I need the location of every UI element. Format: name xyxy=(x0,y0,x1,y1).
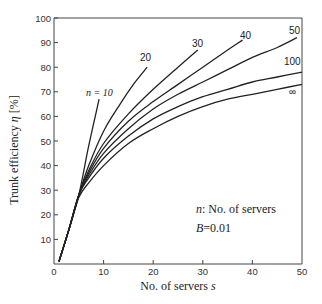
y-tick-label: 100 xyxy=(35,13,51,24)
y-tick-label: 20 xyxy=(40,209,51,220)
curve-label-30: 30 xyxy=(192,38,204,49)
y-tick-label: 60 xyxy=(40,111,51,122)
y-axis-ticks: 102030405060708090100 xyxy=(35,13,58,245)
curve-label-100: 100 xyxy=(284,56,301,67)
curve- xyxy=(59,84,302,261)
y-tick-label: 80 xyxy=(40,62,51,73)
y-tick-label: 30 xyxy=(40,185,51,196)
plot-frame xyxy=(54,18,302,264)
y-axis-title-text: Trunk efficiency xyxy=(7,125,21,205)
note-b-text: =0.01 xyxy=(203,221,231,235)
curve-label-20: 20 xyxy=(140,52,152,63)
curves xyxy=(59,38,302,262)
x-tick-label: 10 xyxy=(98,266,109,277)
x-tick-label: 40 xyxy=(247,266,258,277)
curve-label-n10: n = 10 xyxy=(86,87,113,98)
y-axis-title: Trunk efficiency η [%] xyxy=(7,95,21,205)
curve-label-40: 40 xyxy=(240,30,252,41)
curve-label-infinity: ∞ xyxy=(289,86,296,97)
trunk-efficiency-chart: 102030405060708090100 01020304050 n = 10… xyxy=(0,0,322,304)
curve-label-n10-text: n = 10 xyxy=(86,87,113,98)
curve-100 xyxy=(59,72,302,261)
y-tick-label: 10 xyxy=(40,234,51,245)
curve-n10 xyxy=(59,99,99,261)
curve-30 xyxy=(59,50,198,262)
x-axis-title-text: No. of servers xyxy=(140,279,208,293)
x-tick-label: 0 xyxy=(51,266,56,277)
y-tick-label: 70 xyxy=(40,86,51,97)
x-tick-label: 50 xyxy=(297,266,308,277)
x-axis-title: No. of servers s xyxy=(140,279,216,293)
note-n-definition: n: No. of servers xyxy=(196,202,276,216)
y-axis-title-unit: [%] xyxy=(7,95,21,113)
x-axis-title-var: s xyxy=(211,279,216,293)
y-tick-label: 50 xyxy=(40,136,51,147)
note-n-text: : No. of servers xyxy=(202,202,276,216)
note-blocking-probability: B=0.01 xyxy=(196,221,231,235)
x-tick-label: 20 xyxy=(148,266,159,277)
y-tick-label: 90 xyxy=(40,37,51,48)
y-tick-label: 40 xyxy=(40,160,51,171)
x-axis-ticks: 01020304050 xyxy=(51,260,307,277)
curve-label-50: 50 xyxy=(289,25,301,36)
x-tick-label: 30 xyxy=(198,266,209,277)
